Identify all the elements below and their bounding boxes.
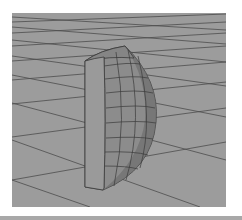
half-cylinder-object[interactable]	[85, 46, 156, 190]
bottom-edge-bar	[0, 216, 242, 220]
3d-viewport[interactable]	[12, 13, 226, 207]
